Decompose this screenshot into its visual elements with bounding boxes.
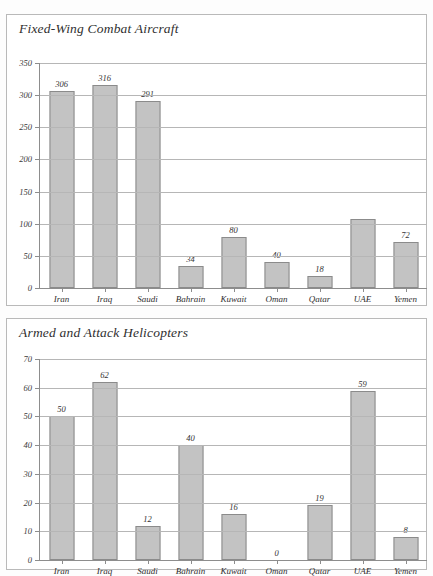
gridline <box>40 159 427 160</box>
bar-slot-helicopters-qatar: 19Qatar <box>298 359 341 560</box>
bar-fixed-wing-yemen[interactable] <box>393 242 418 288</box>
chart-panel-helicopters: Armed and Attack Helicopters 50Iran62Ira… <box>6 318 427 570</box>
bar-slot-fixed-wing-bahrain: 34Bahrain <box>169 63 212 288</box>
chart-panel-fixed-wing: Fixed-Wing Combat Aircraft 306Iran316Ira… <box>6 14 427 306</box>
y-axis-label-350: 350 <box>19 58 32 68</box>
y-axis-tick <box>35 95 40 96</box>
y-axis-tick <box>35 560 40 561</box>
bar-slot-helicopters-bahrain: 40Bahrain <box>169 359 212 560</box>
x-axis-tick <box>191 560 192 564</box>
gridline <box>40 63 427 64</box>
bar-value-fixed-wing-kuwait: 80 <box>229 225 238 235</box>
bar-slot-helicopters-iraq: 62Iraq <box>83 359 126 560</box>
bar-fixed-wing-qatar[interactable] <box>307 276 332 288</box>
y-axis-label-150: 150 <box>19 187 32 197</box>
x-axis-label-fixed-wing-kuwait: Kuwait <box>220 294 246 304</box>
gridline <box>40 192 427 193</box>
y-axis-tick <box>35 159 40 160</box>
bar-helicopters-iran[interactable] <box>49 416 74 560</box>
y-axis-label-20: 20 <box>24 498 33 508</box>
x-axis-tick <box>363 560 364 564</box>
gridline <box>40 127 427 128</box>
y-axis-label-250: 250 <box>19 122 32 132</box>
y-axis-tick <box>35 63 40 64</box>
gridline <box>40 388 427 389</box>
y-axis-tick <box>35 224 40 225</box>
x-axis-tick <box>105 560 106 564</box>
x-axis-tick <box>234 560 235 564</box>
bar-slot-fixed-wing-kuwait: 80Kuwait <box>212 63 255 288</box>
y-axis-tick <box>35 288 40 289</box>
gridline <box>40 359 427 360</box>
bar-value-helicopters-kuwait: 16 <box>229 502 238 512</box>
bar-fixed-wing-kuwait[interactable] <box>221 237 246 288</box>
gridline <box>40 256 427 257</box>
y-axis-tick <box>35 256 40 257</box>
x-axis-label-fixed-wing-yemen: Yemen <box>394 294 417 304</box>
bar-group-helicopters: 50Iran62Iraq12Saudi40Bahrain16Kuwait0Oma… <box>40 359 427 560</box>
bar-value-helicopters-bahrain: 40 <box>186 433 195 443</box>
chart-title-fixed-wing: Fixed-Wing Combat Aircraft <box>19 21 179 37</box>
y-axis-label-50: 50 <box>24 411 33 421</box>
gridline <box>40 474 427 475</box>
y-axis-tick <box>35 192 40 193</box>
bar-slot-fixed-wing-yemen: 72Yemen <box>384 63 427 288</box>
y-axis-tick <box>35 388 40 389</box>
bar-fixed-wing-iraq[interactable] <box>92 85 117 288</box>
x-axis-tick <box>277 560 278 564</box>
x-axis-label-fixed-wing-bahrain: Bahrain <box>176 294 206 304</box>
bar-value-fixed-wing-yemen: 72 <box>401 230 410 240</box>
x-axis-label-helicopters-qatar: Qatar <box>309 566 331 576</box>
gridline <box>40 445 427 446</box>
x-axis-tick <box>62 560 63 564</box>
y-axis-tick <box>35 445 40 446</box>
bar-value-fixed-wing-iran: 306 <box>55 79 68 89</box>
bar-slot-helicopters-oman: 0Oman <box>255 359 298 560</box>
x-axis-tick <box>148 288 149 292</box>
bar-value-fixed-wing-iraq: 316 <box>98 73 111 83</box>
bar-fixed-wing-saudi[interactable] <box>135 101 160 288</box>
y-axis-tick <box>35 474 40 475</box>
bar-slot-helicopters-kuwait: 16Kuwait <box>212 359 255 560</box>
x-axis-tick <box>277 288 278 292</box>
y-axis-tick <box>35 416 40 417</box>
x-axis-label-helicopters-iran: Iran <box>54 566 70 576</box>
y-axis-tick <box>35 127 40 128</box>
bar-value-helicopters-iran: 50 <box>57 404 66 414</box>
y-axis-tick <box>35 531 40 532</box>
y-axis-label-0: 0 <box>28 555 32 565</box>
x-axis-label-helicopters-oman: Oman <box>266 566 288 576</box>
bar-helicopters-iraq[interactable] <box>92 382 117 560</box>
bar-slot-fixed-wing-qatar: 18Qatar <box>298 63 341 288</box>
bar-helicopters-qatar[interactable] <box>307 505 332 560</box>
bar-value-helicopters-yemen: 8 <box>403 525 407 535</box>
chart-page: Fixed-Wing Combat Aircraft 306Iran316Ira… <box>0 0 433 576</box>
x-axis-label-helicopters-kuwait: Kuwait <box>220 566 246 576</box>
x-axis-label-fixed-wing-oman: Oman <box>266 294 288 304</box>
x-axis-label-helicopters-iraq: Iraq <box>97 566 113 576</box>
x-axis-tick <box>320 288 321 292</box>
x-axis-label-fixed-wing-iraq: Iraq <box>97 294 113 304</box>
x-axis-label-helicopters-uae: UAE <box>354 566 372 576</box>
bar-value-helicopters-iraq: 62 <box>100 370 109 380</box>
bar-fixed-wing-oman[interactable] <box>264 262 289 288</box>
y-axis-label-0: 0 <box>28 283 32 293</box>
bar-fixed-wing-iran[interactable] <box>49 91 74 288</box>
bar-helicopters-yemen[interactable] <box>393 537 418 560</box>
plot-area-helicopters: 50Iran62Iraq12Saudi40Bahrain16Kuwait0Oma… <box>39 359 427 561</box>
y-axis-label-10: 10 <box>24 526 33 536</box>
bar-slot-fixed-wing-saudi: 291Saudi <box>126 63 169 288</box>
y-axis-tick <box>35 503 40 504</box>
bar-slot-fixed-wing-iraq: 316Iraq <box>83 63 126 288</box>
bar-group-fixed-wing: 306Iran316Iraq291Saudi34Bahrain80Kuwait4… <box>40 63 427 288</box>
bar-helicopters-kuwait[interactable] <box>221 514 246 560</box>
x-axis-tick <box>363 288 364 292</box>
bar-fixed-wing-uae[interactable] <box>350 219 375 288</box>
y-axis-label-30: 30 <box>24 469 33 479</box>
x-axis-tick <box>62 288 63 292</box>
bar-fixed-wing-bahrain[interactable] <box>178 266 203 288</box>
y-axis-label-200: 200 <box>19 154 32 164</box>
x-axis-label-fixed-wing-uae: UAE <box>354 294 372 304</box>
x-axis-tick <box>234 288 235 292</box>
bar-value-helicopters-oman: 0 <box>274 548 278 558</box>
